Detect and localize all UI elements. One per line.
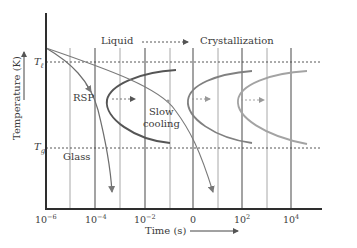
slow-cooling-label-1: Slow xyxy=(149,107,174,117)
t-liquidus-label: Tℓ xyxy=(34,56,44,70)
c-curve-3 xyxy=(238,71,307,144)
x-tick-1e4: 104 xyxy=(283,214,299,225)
slow-cooling-curve xyxy=(46,48,213,192)
x-tick-0: 0 xyxy=(190,214,196,225)
rsp-label: RSP xyxy=(73,93,94,103)
x-tick-1e-2: 10−2 xyxy=(134,214,156,225)
x-tick-1e2: 102 xyxy=(234,214,250,225)
x-tick-1e-6: 10−6 xyxy=(35,214,57,225)
slow-cooling-label-2: cooling xyxy=(143,119,180,129)
grid-lines xyxy=(70,48,291,209)
glass-label: Glass xyxy=(63,152,90,162)
t-glass-label: Tg xyxy=(34,141,45,155)
crystallization-label: Crystallization xyxy=(200,36,274,46)
x-tick-1e-4: 10−4 xyxy=(85,214,107,225)
liquid-label: Liquid xyxy=(101,36,133,46)
rsp-cooling-curve xyxy=(46,48,112,192)
x-axis-label: Time (s) xyxy=(145,226,186,236)
y-axis-label: Temperature (K) xyxy=(11,56,22,140)
